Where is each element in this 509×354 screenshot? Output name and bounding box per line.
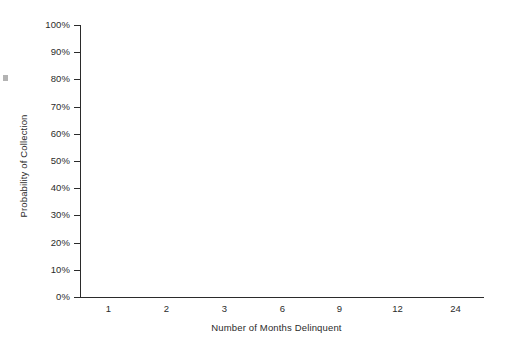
- y-axis-tick-mark: [74, 161, 81, 162]
- y-axis-tick-label-wrap: 20%: [22, 238, 70, 248]
- y-axis-tick-label: 30%: [28, 210, 70, 220]
- y-axis-tick-label-wrap: 10%: [22, 265, 70, 275]
- y-axis-tick-mark: [74, 52, 81, 53]
- x-axis-tick-label: 24: [426, 303, 486, 314]
- y-axis-tick-label-wrap: 50%: [22, 156, 70, 166]
- x-axis-tick-label: 1: [79, 303, 139, 314]
- x-axis-tick-label: 9: [310, 303, 370, 314]
- y-axis-tick-label: 60%: [28, 129, 70, 139]
- x-axis-line: [80, 297, 484, 298]
- y-axis-tick-mark: [74, 270, 81, 271]
- x-axis-tick-label: 3: [195, 303, 255, 314]
- bar-chart: 0%10%20%30%40%50%60%70%80%90%100% Probab…: [0, 0, 509, 354]
- y-axis-tick-label-wrap: 40%: [22, 183, 70, 193]
- y-axis-tick-mark: [74, 79, 81, 80]
- y-axis-tick-label: 0%: [28, 292, 70, 302]
- y-axis-tick-mark: [74, 243, 81, 244]
- y-axis-tick-label-wrap: 60%: [22, 129, 70, 139]
- y-axis-tick-label-wrap: 0%: [22, 292, 70, 302]
- y-axis-tick-label-wrap: 30%: [22, 210, 70, 220]
- y-axis-tick-label: 20%: [28, 238, 70, 248]
- y-axis-tick-label-wrap: 70%: [22, 102, 70, 112]
- y-axis-title: Probability of Collection: [19, 81, 29, 251]
- y-axis-tick-label: 70%: [28, 102, 70, 112]
- x-axis-tick-label: 2: [137, 303, 197, 314]
- y-axis-tick-label: 50%: [28, 156, 70, 166]
- y-axis-tick-mark: [74, 188, 81, 189]
- y-axis-tick-label: 90%: [28, 47, 70, 57]
- y-axis-tick-label: 40%: [28, 183, 70, 193]
- x-axis-tick-label: 6: [253, 303, 313, 314]
- x-axis-title: Number of Months Delinquent: [0, 322, 509, 333]
- y-axis-tick-label: 80%: [28, 74, 70, 84]
- y-axis-tick-label-wrap: 100%: [22, 20, 70, 30]
- y-axis-tick-mark: [74, 107, 81, 108]
- y-axis-tick-label-wrap: 90%: [22, 47, 70, 57]
- x-axis-tick-label: 12: [368, 303, 428, 314]
- plot-area: 0%10%20%30%40%50%60%70%80%90%100% Probab…: [0, 0, 509, 354]
- y-axis-tick-mark: [74, 215, 81, 216]
- y-axis-tick-mark: [74, 25, 81, 26]
- y-axis-tick-label: 100%: [28, 20, 70, 30]
- y-axis-tick-label: 10%: [28, 265, 70, 275]
- y-axis-tick-mark: [74, 134, 81, 135]
- y-axis-tick-label-wrap: 80%: [22, 74, 70, 84]
- y-axis-tick-mark: [74, 297, 81, 298]
